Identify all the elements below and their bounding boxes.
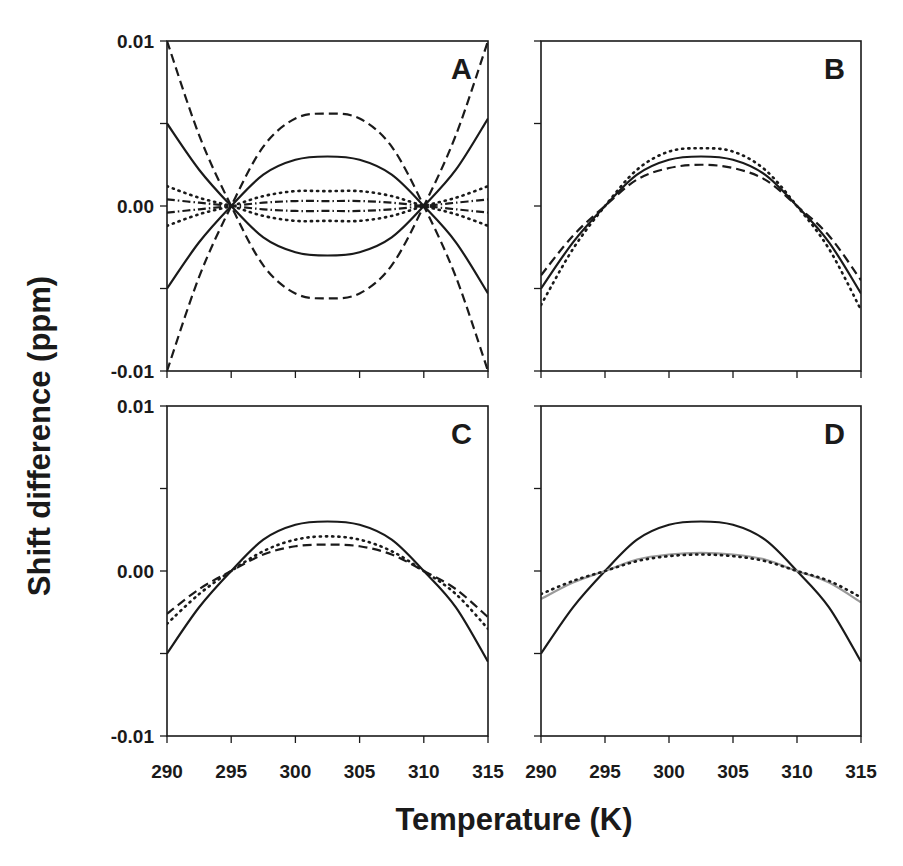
series-line-dashed [167, 114, 488, 371]
x-tick-label: 300 [653, 761, 685, 782]
x-tick-label: 300 [280, 761, 312, 782]
x-tick-label: 315 [845, 761, 877, 782]
plot-frame [541, 406, 861, 736]
panel-a: 0.010.00-0.01A [111, 31, 488, 382]
figure-canvas: 0.010.00-0.01AB2902953003053103150.010.0… [0, 0, 903, 866]
series-line-dashed [167, 41, 488, 298]
y-tick-label: 0.00 [117, 561, 154, 582]
x-tick-label: 315 [472, 761, 504, 782]
panel-b: B [534, 41, 861, 378]
x-tick-label: 305 [344, 761, 376, 782]
series-line-solid [167, 119, 488, 256]
panel-label: C [451, 418, 472, 450]
panel-label: B [824, 53, 845, 85]
series-line-solid [541, 553, 861, 603]
series-line-solid [167, 157, 488, 294]
y-tick-label: 0.01 [117, 31, 154, 52]
y-tick-label: -0.01 [111, 361, 155, 382]
panel-d: 290295300305310315D [525, 406, 877, 782]
y-tick-label: 0.01 [117, 396, 154, 417]
x-tick-label: 305 [717, 761, 749, 782]
y-tick-label: 0.00 [117, 196, 154, 217]
series-line-dotted [167, 536, 488, 628]
y-axis-label: Shift difference (ppm) [22, 236, 58, 636]
y-tick-label: -0.01 [111, 726, 155, 747]
x-tick-label: 310 [408, 761, 440, 782]
plot-frame [167, 406, 488, 736]
series-line-solid [167, 522, 488, 662]
x-axis-label: Temperature (K) [167, 802, 861, 838]
plot-frame [541, 41, 861, 371]
plot-frame [167, 41, 488, 371]
panel-c: 2902953003053103150.010.00-0.01C [111, 396, 505, 782]
panel-label: A [451, 53, 472, 85]
x-tick-label: 290 [525, 761, 557, 782]
series-line-dotted [541, 148, 861, 310]
x-tick-label: 295 [215, 761, 247, 782]
panel-label: D [824, 418, 845, 450]
x-tick-label: 290 [151, 761, 183, 782]
x-tick-label: 295 [589, 761, 621, 782]
x-tick-label: 310 [781, 761, 813, 782]
series-line-solid [541, 522, 861, 662]
series-line-dotted [541, 555, 861, 598]
